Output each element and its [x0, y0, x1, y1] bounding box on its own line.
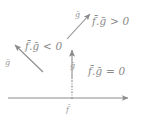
label-vector-g-upper-right: ḡ [75, 11, 80, 19]
vector-dot-product-diagram: f̄.ḡ > 0 f̄.ḡ < 0 f̄.ḡ = 0 ḡ ḡ ḡ f̄ [0, 0, 145, 124]
label-vector-g-vertical: ḡ [70, 62, 75, 70]
label-dot-product-positive: f̄.ḡ > 0 [92, 16, 130, 27]
label-vector-f-origin: f̄ [66, 106, 69, 114]
label-vector-g-upper-left: ḡ [5, 59, 10, 67]
label-dot-product-zero: f̄.ḡ = 0 [88, 66, 126, 77]
label-dot-product-negative: f̄.ḡ < 0 [25, 41, 63, 52]
